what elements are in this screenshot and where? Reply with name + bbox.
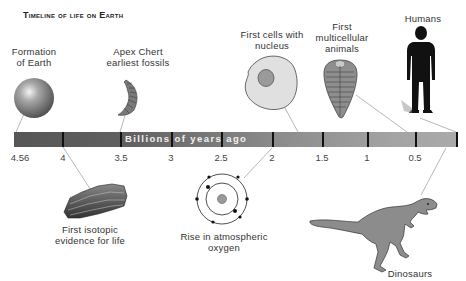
label-line: Formation [4,46,64,57]
trilobite-icon [324,60,357,118]
dinosaur-icon [310,199,437,272]
event-label-isotopic: First isotopic evidence for life [50,224,130,246]
event-label-cells: First cells with nucleus [233,29,311,51]
label-line: nucleus [233,40,311,51]
label-line: oxygen [176,242,272,253]
label-line: First isotopic [50,224,130,235]
event-label-formation: Formation of Earth [4,46,64,68]
label-line: animals [310,43,374,54]
human-shadow [401,100,412,113]
event-label-apex-chert: Apex Chert earliest fossils [100,46,176,68]
label-line: First cells with [233,29,311,40]
label-line: Rise in atmospheric [176,231,272,242]
label-line: multicellular [310,32,374,43]
label-line: Humans [398,13,448,24]
planet-sphere-icon [14,78,54,118]
event-label-dinosaurs: Dinosaurs [380,268,440,279]
human-silhouette-icon [407,26,435,113]
event-label-humans: Humans [398,13,448,24]
label-line: Apex Chert [100,46,176,57]
label-line: First [310,21,374,32]
label-line: of Earth [4,57,64,68]
rock-layers-icon [64,184,127,218]
event-label-oxygen: Rise in atmospheric oxygen [176,231,272,253]
fossil-filament-icon [118,80,137,115]
label-line: evidence for life [50,235,130,246]
oxygen-atom-icon [195,174,249,224]
eukaryotic-cell-icon [245,56,297,109]
event-label-multicellular: First multicellular animals [310,21,374,54]
label-line: Dinosaurs [380,268,440,279]
label-line: earliest fossils [100,57,176,68]
connector-lines [16,95,456,195]
